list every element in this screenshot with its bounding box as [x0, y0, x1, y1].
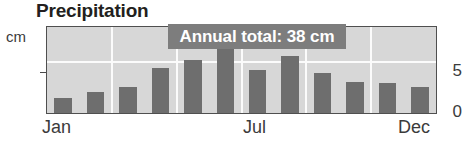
bar-jul	[249, 70, 267, 114]
x-tick-label-jul: Jul	[243, 116, 266, 138]
bar-aug	[281, 56, 299, 113]
y-axis-unit-label: cm	[6, 28, 26, 45]
bar-jun	[217, 49, 235, 113]
annual-total-callout: Annual total: 38 cm	[168, 24, 346, 49]
bar-mar	[119, 87, 137, 113]
x-tick-label-jan: Jan	[42, 116, 71, 138]
x-tick-label-dec: Dec	[398, 116, 430, 138]
bar-dec	[411, 87, 429, 113]
chart-title: Precipitation	[36, 0, 148, 22]
bar-apr	[152, 68, 170, 113]
bar-jan	[54, 98, 72, 113]
bar-sep	[314, 73, 332, 113]
bar-oct	[346, 82, 364, 113]
bar-nov	[379, 83, 397, 113]
annual-total-label: Annual total: 38 cm	[180, 27, 335, 47]
bar-may	[184, 60, 202, 113]
bar-feb	[87, 92, 105, 113]
precipitation-chart-figure: Precipitation cm 5 0 Annual total: 38 cm…	[0, 0, 462, 158]
